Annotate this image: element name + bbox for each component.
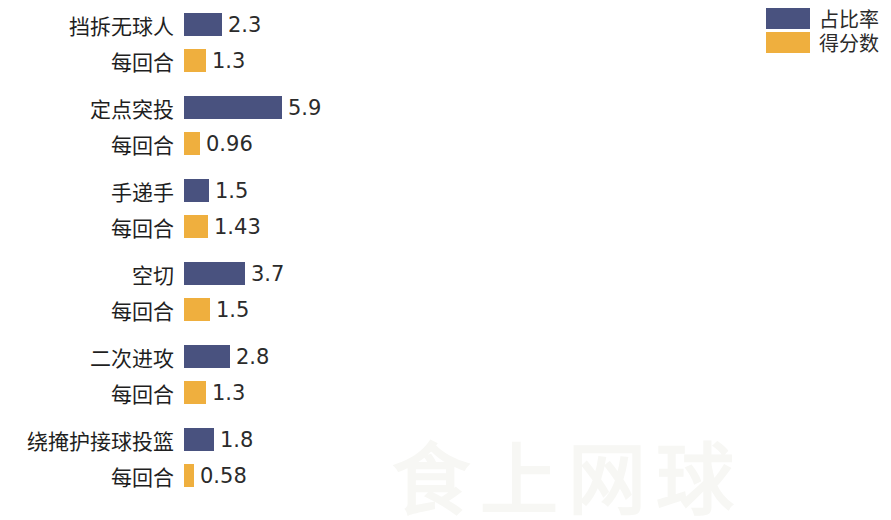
bar-points[interactable] [184,381,206,404]
sub-label-per-possession: 每回合 [111,461,174,491]
category-label: 空切 [132,259,174,289]
bar-row-points: 每回合1.3 [0,381,340,404]
watermark-text: 食上网球 [392,438,891,520]
bar-value-label: 1.3 [212,49,245,73]
bar-row-share: 挡拆无球人2.3 [0,13,340,36]
bar-group: 绕掩护接球投篮1.8每回合0.58 [0,428,340,487]
bar-group: 二次进攻2.8每回合1.3 [0,345,340,404]
bar-row-points: 每回合0.58 [0,464,340,487]
sub-label-per-possession: 每回合 [111,46,174,76]
legend-swatch-points [766,32,810,53]
bar-row-share: 绕掩护接球投篮1.8 [0,428,340,451]
bar-value-label: 1.3 [212,381,245,405]
bar-value-label: 0.96 [206,132,253,156]
category-label: 定点突投 [90,93,174,123]
bar-row-share: 二次进攻2.8 [0,345,340,368]
bar-value-label: 1.43 [214,215,261,239]
bar-value-label: 1.5 [215,179,248,203]
bar-row-points: 每回合1.3 [0,49,340,72]
category-label: 挡拆无球人 [69,10,174,40]
sub-label-per-possession: 每回合 [111,212,174,242]
sub-label-per-possession: 每回合 [111,295,174,325]
sub-label-per-possession: 每回合 [111,378,174,408]
bar-value-label: 2.8 [236,345,269,369]
bar-points[interactable] [184,464,194,487]
sub-label-per-possession: 每回合 [111,129,174,159]
bar-value-label: 2.3 [228,13,261,37]
bar-value-label: 5.9 [288,96,321,120]
legend-item[interactable]: 得分数 [766,30,891,54]
chart-legend: 占比率得分数 [766,6,891,54]
legend-item-label: 得分数 [819,28,879,57]
bar-group: 手递手1.5每回合1.43 [0,179,340,238]
bar-points[interactable] [184,215,208,238]
category-label: 绕掩护接球投篮 [27,425,174,455]
bar-row-share: 定点突投5.9 [0,96,340,119]
bar-group: 定点突投5.9每回合0.96 [0,96,340,155]
bar-share[interactable] [184,262,245,285]
bar-group: 挡拆无球人2.3每回合1.3 [0,13,340,72]
bar-group: 空切3.7每回合1.5 [0,262,340,321]
bar-points[interactable] [184,49,206,72]
category-label: 二次进攻 [90,342,174,372]
bar-share[interactable] [184,179,209,202]
bar-points[interactable] [184,298,210,321]
bar-row-points: 每回合0.96 [0,132,340,155]
legend-swatch-share [766,8,810,29]
bar-row-points: 每回合1.43 [0,215,340,238]
bar-value-label: 3.7 [251,262,284,286]
bar-row-points: 每回合1.5 [0,298,340,321]
bar-value-label: 1.8 [220,428,253,452]
bar-share[interactable] [184,345,230,368]
legend-item[interactable]: 占比率 [766,6,891,30]
bar-share[interactable] [184,428,214,451]
bar-value-label: 1.5 [216,298,249,322]
bar-row-share: 手递手1.5 [0,179,340,202]
bar-share[interactable] [184,13,222,36]
bar-value-label: 0.58 [200,464,247,488]
bar-share[interactable] [184,96,282,119]
bar-points[interactable] [184,132,200,155]
category-label: 手递手 [111,176,174,206]
bar-row-share: 空切3.7 [0,262,340,285]
